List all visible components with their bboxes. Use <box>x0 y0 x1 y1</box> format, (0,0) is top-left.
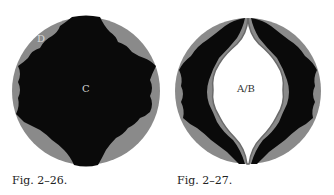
figure-caption: Fig. 2–26. <box>12 174 67 187</box>
label-ab: A/B <box>237 83 255 94</box>
figure-2-27: A/B Fig. 2–27. <box>167 0 334 195</box>
label-c: C <box>82 83 90 94</box>
figure-caption: Fig. 2–27. <box>177 174 232 187</box>
label-d: D <box>37 33 45 44</box>
diagram-circle-d-c <box>0 0 167 195</box>
figure-2-26: D C Fig. 2–26. <box>0 0 167 195</box>
diagram-circle-ab <box>167 0 334 195</box>
